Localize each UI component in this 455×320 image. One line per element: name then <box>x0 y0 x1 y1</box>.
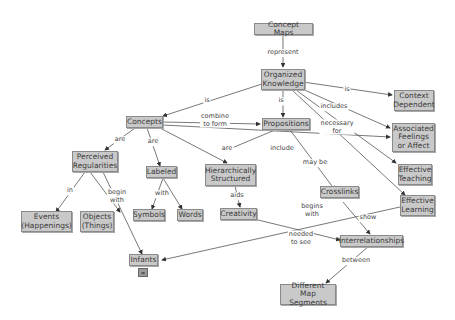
link-label-aids: aids <box>229 192 244 200</box>
link-label-in: in <box>66 187 74 195</box>
node-labeled[interactable]: Labeled <box>146 166 177 178</box>
node-symbols[interactable]: Symbols <box>133 209 165 221</box>
link-label-is-concepts: is <box>203 97 210 105</box>
node-context-dependent[interactable]: Context Dependent <box>394 90 434 111</box>
node-hierarchically-structured[interactable]: Hierarchically Structured <box>205 164 256 186</box>
link-label-necessary-for: necessary for <box>320 120 355 135</box>
link-label-includes: includes <box>320 103 349 111</box>
node-different-map-segments[interactable]: Different Map Segments <box>280 284 336 305</box>
link-label-needed-to-see: needed to see <box>288 231 314 246</box>
line-are-labeled <box>147 128 160 166</box>
node-organized-knowledge[interactable]: Organized Knowledge <box>261 69 305 90</box>
node-interrelationships[interactable]: Interrelationships <box>340 235 403 247</box>
node-concepts[interactable]: Concepts <box>126 116 163 128</box>
link-icon[interactable]: ∞ <box>138 268 148 277</box>
line-necessary-learning <box>292 90 405 195</box>
link-label-combine-to-form: combine to form <box>200 113 230 128</box>
link-label-are-labeled: are <box>147 138 160 146</box>
link-label-is-propositions: is <box>277 97 284 105</box>
line-are-hier <box>160 128 227 163</box>
node-perceived-regularities[interactable]: Perceived Regularities <box>72 151 118 172</box>
node-concept-maps[interactable]: Concept Maps <box>254 23 313 35</box>
concept-map-canvas: represent is is is includes necessary fo… <box>0 0 455 320</box>
link-label-is-context: is <box>343 86 350 94</box>
link-label-include: include <box>269 145 295 153</box>
link-label-begin-with: begin with <box>107 189 127 204</box>
node-words[interactable]: Words <box>177 209 203 221</box>
link-label-between: between <box>341 257 371 265</box>
node-events[interactable]: Events (Happenings) <box>21 211 72 232</box>
node-creativity[interactable]: Creativity <box>220 208 257 220</box>
node-effective-teaching[interactable]: Effective Teaching <box>398 164 432 185</box>
link-label-are-hier: are <box>221 145 234 153</box>
link-label-are-perceived: are <box>114 136 127 144</box>
node-propositions[interactable]: Propositions <box>262 118 310 130</box>
node-effective-learning[interactable]: Effective Learning <box>400 195 435 216</box>
node-associated-feelings[interactable]: Associated Feelings or Affect <box>392 123 435 152</box>
node-infants[interactable]: Infants <box>129 254 158 266</box>
line-prop-hier <box>227 130 275 150</box>
node-crosslinks[interactable]: Crosslinks <box>320 186 359 198</box>
link-label-show: show <box>359 214 378 222</box>
link-label-with: with <box>154 190 170 198</box>
connection-lines <box>0 0 455 320</box>
link-label-begins-with: begins with <box>300 203 324 218</box>
link-label-may-be: may be <box>302 159 328 167</box>
link-label-represent: represent <box>266 49 299 57</box>
node-objects[interactable]: Objects (Things) <box>80 211 114 232</box>
